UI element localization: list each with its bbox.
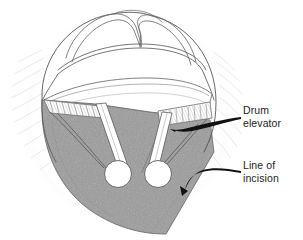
drum-head-left xyxy=(105,161,132,188)
drum-head-right xyxy=(145,161,172,188)
callout-label-drum-elevator: Drum elevator xyxy=(243,104,281,129)
callout-label-line-of-incision: Line of incision xyxy=(243,159,279,184)
figure-container: Drum elevator Line of incision xyxy=(0,0,303,240)
